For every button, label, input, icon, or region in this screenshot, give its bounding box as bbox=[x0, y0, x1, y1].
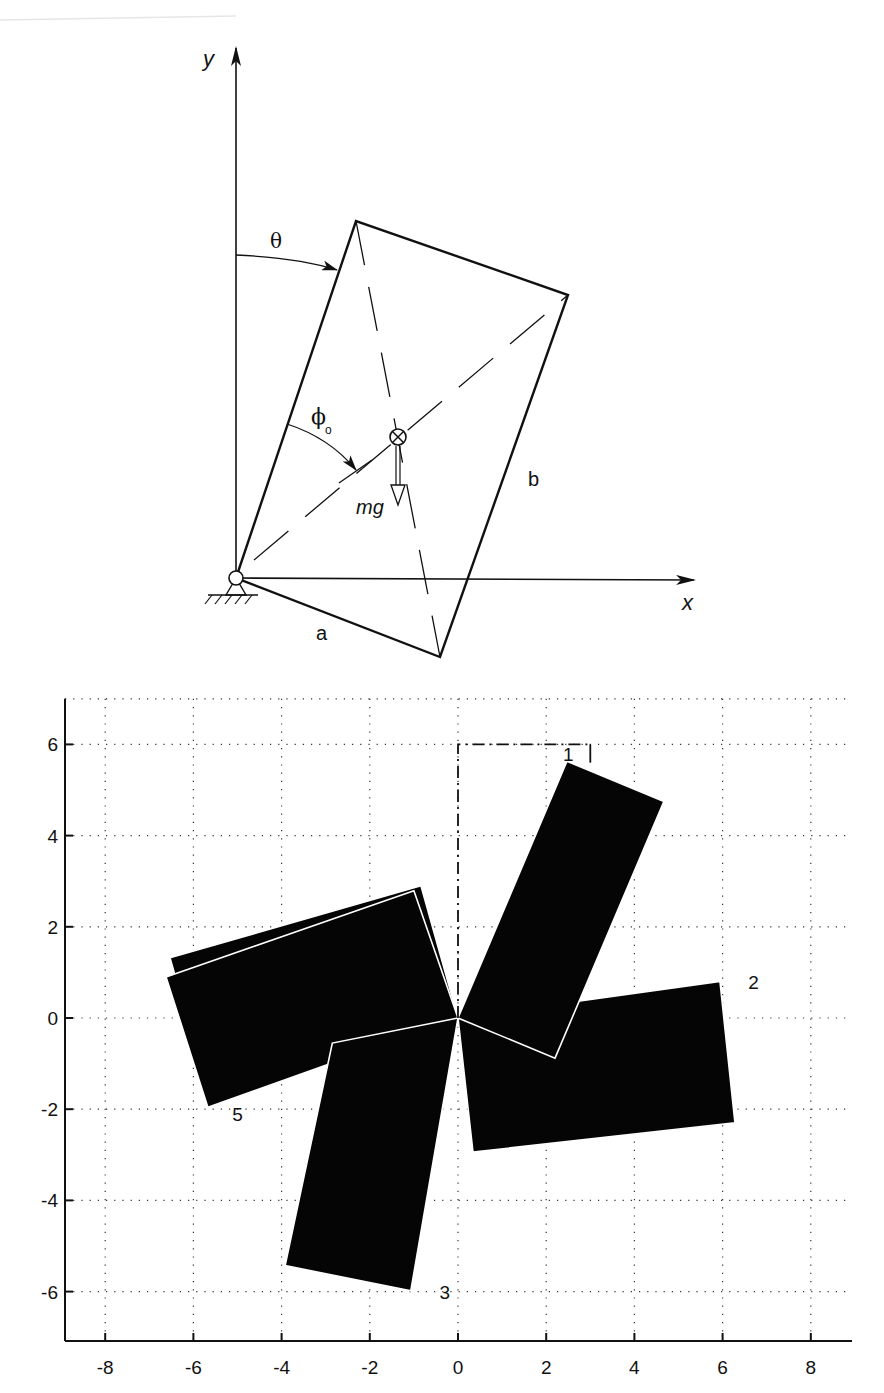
phi-reference-tick bbox=[339, 460, 372, 483]
y-tick-label: -2 bbox=[41, 1099, 58, 1120]
x-tick-label: 6 bbox=[717, 1357, 728, 1378]
chart-rectangles bbox=[166, 761, 735, 1290]
rectangle-label-1: 1 bbox=[563, 744, 574, 765]
x-tick-label: -6 bbox=[185, 1357, 202, 1378]
y-tick-label: 4 bbox=[47, 826, 58, 847]
x-tick-label: 0 bbox=[453, 1357, 464, 1378]
phi-arc bbox=[287, 424, 356, 470]
rectangle-label-5: 5 bbox=[232, 1104, 243, 1125]
rectangle-label-3: 3 bbox=[439, 1282, 450, 1303]
center-of-mass-icon bbox=[390, 429, 406, 445]
side-b-label: b bbox=[528, 468, 539, 490]
pin-support-icon bbox=[205, 571, 258, 604]
x-axis bbox=[236, 578, 694, 580]
x-tick-label: -8 bbox=[97, 1357, 114, 1378]
force-label: mg bbox=[356, 496, 384, 518]
x-tick-label: 8 bbox=[806, 1357, 817, 1378]
rotation-chart: -8-6-4-2024686420-2-4-6 1235 bbox=[41, 699, 852, 1378]
y-axis-label: y bbox=[201, 46, 216, 71]
y-tick-label: 0 bbox=[47, 1008, 58, 1029]
x-axis-label: x bbox=[681, 590, 694, 615]
side-a-label: a bbox=[316, 622, 328, 644]
x-tick-label: -4 bbox=[273, 1357, 290, 1378]
phi-label: ϕ bbox=[311, 404, 326, 429]
theta-label: θ bbox=[270, 229, 282, 253]
gravity-arrow-icon bbox=[391, 446, 405, 505]
rectangle-label-2: 2 bbox=[748, 972, 759, 993]
y-tick-label: 6 bbox=[47, 734, 58, 755]
y-tick-label: -6 bbox=[41, 1282, 58, 1303]
x-tick-label: 2 bbox=[541, 1357, 552, 1378]
theta-arc bbox=[236, 255, 337, 270]
figure: y x θ ϕ o mg b a bbox=[0, 0, 884, 1393]
y-tick-label: 2 bbox=[47, 917, 58, 938]
y-tick-label: -4 bbox=[41, 1190, 58, 1211]
x-tick-label: 4 bbox=[629, 1357, 640, 1378]
scan-artifact bbox=[0, 16, 236, 20]
phi-subscript: o bbox=[325, 423, 332, 437]
block-diagram: y x θ ϕ o mg b a bbox=[0, 16, 694, 657]
x-tick-label: -2 bbox=[361, 1357, 378, 1378]
